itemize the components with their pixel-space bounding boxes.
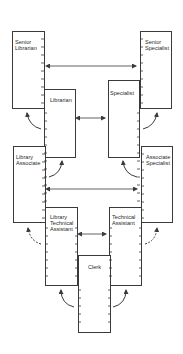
box-senior-specialist: Senior Specialist (140, 31, 172, 109)
curve-lta-to-library-associate (28, 228, 41, 244)
box-library-technical-assistant: Library Technical Assistant (45, 207, 78, 286)
label-senior-specialist: Senior Specialist (145, 39, 169, 51)
box-library-associate: Library Associate (13, 146, 46, 223)
box-specialist: Specialist (108, 80, 140, 158)
label-library-associate: Library Associate (16, 154, 40, 166)
career-ladder-diagram: Senior Librarian Senior Specialist Libra… (0, 0, 183, 354)
label-library-technical-assistant: Library Technical Assistant (50, 214, 73, 233)
box-associate-specialist: Associate Specialist (141, 146, 173, 223)
curve-clerk-to-lta (61, 290, 74, 307)
label-senior-librarian: Senior Librarian (15, 39, 37, 51)
label-clerk: Clerk (79, 264, 110, 270)
curve-clerk-to-ta (113, 290, 126, 307)
curve-library-associate-to-librarian (49, 161, 62, 177)
label-associate-specialist: Associate Specialist (146, 154, 170, 166)
box-clerk: Clerk (78, 255, 111, 333)
label-specialist: Specialist (110, 90, 134, 96)
curve-librarian-to-senior-librarian (27, 113, 41, 129)
curve-associate-specialist-to-specialist (123, 161, 137, 177)
box-technical-assistant: Technical Assistant (109, 207, 142, 286)
label-technical-assistant: Technical Assistant (112, 214, 135, 226)
curve-specialist-to-senior-specialist (143, 113, 157, 129)
box-senior-librarian: Senior Librarian (12, 31, 45, 109)
box-librarian: Librarian (44, 89, 76, 158)
label-librarian: Librarian (50, 97, 72, 103)
curve-ta-to-associate-specialist (145, 228, 157, 244)
